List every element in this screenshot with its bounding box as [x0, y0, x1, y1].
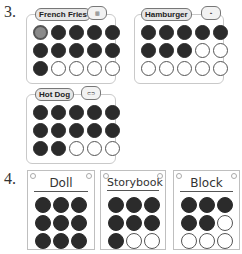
filled-circle-icon — [181, 197, 197, 213]
filled-circle-icon — [87, 25, 102, 40]
filled-circle-icon — [108, 215, 124, 231]
empty-circle-icon — [144, 233, 160, 249]
filled-circle-icon — [35, 215, 51, 231]
filled-circle-icon — [51, 25, 66, 40]
filled-circle-icon — [87, 43, 102, 58]
empty-circle-icon — [87, 61, 102, 76]
empty-circle-icon — [51, 61, 66, 76]
dot-grid — [33, 105, 120, 156]
empty-circle-icon — [199, 233, 215, 249]
filled-circle-icon — [144, 197, 160, 213]
empty-circle-icon — [105, 61, 120, 76]
empty-circle-icon — [195, 43, 210, 58]
filled-circle-icon — [71, 215, 87, 231]
filled-circle-icon — [105, 123, 120, 138]
empty-circle-icon — [126, 233, 142, 249]
filled-circle-icon — [51, 105, 66, 120]
question-number: 3. — [4, 3, 16, 21]
filled-circle-icon — [51, 43, 66, 58]
filled-circle-icon — [199, 215, 215, 231]
filled-circle-icon — [69, 123, 84, 138]
card-title: Block — [180, 176, 233, 192]
filled-circle-icon — [105, 25, 120, 40]
filled-circle-icon — [195, 25, 210, 40]
empty-circle-icon — [213, 61, 228, 76]
dot-grid — [141, 25, 228, 76]
card-label: Hamburger — [141, 8, 192, 21]
empty-circle-icon — [105, 141, 120, 156]
filled-circle-icon — [126, 197, 142, 213]
filled-circle-icon — [213, 25, 228, 40]
filled-circle-icon — [71, 197, 87, 213]
filled-circle-icon — [108, 197, 124, 213]
empty-circle-icon — [217, 215, 233, 231]
empty-circle-icon — [213, 43, 228, 58]
empty-circle-icon — [195, 61, 210, 76]
empty-circle-icon — [87, 141, 102, 156]
french-fries-card: French Fries ▥ — [26, 14, 116, 84]
card-title: Storybook — [107, 176, 159, 191]
dot-grid — [181, 197, 233, 249]
filled-circle-icon — [35, 197, 51, 213]
filled-circle-icon — [33, 141, 48, 156]
filled-circle-icon — [53, 215, 69, 231]
filled-circle-icon — [51, 141, 66, 156]
filled-circle-icon — [69, 105, 84, 120]
filled-circle-icon — [159, 43, 174, 58]
card-label: French Fries — [35, 8, 91, 21]
filled-circle-icon — [141, 43, 156, 58]
empty-circle-icon — [159, 61, 174, 76]
filled-circle-icon — [69, 25, 84, 40]
filled-circle-icon — [33, 105, 48, 120]
filled-circle-icon — [33, 123, 48, 138]
filled-circle-icon — [159, 25, 174, 40]
filled-circle-icon — [53, 197, 69, 213]
hamburger-icon: ◓ — [201, 6, 221, 20]
filled-circle-icon — [105, 43, 120, 58]
filled-circle-icon — [53, 233, 69, 249]
empty-circle-icon — [177, 61, 192, 76]
filled-circle-icon — [87, 105, 102, 120]
filled-circle-icon — [71, 233, 87, 249]
filled-circle-icon — [35, 233, 51, 249]
filled-circle-icon — [33, 61, 48, 76]
filled-circle-icon — [141, 25, 156, 40]
fries-icon: ▥ — [87, 6, 107, 20]
filled-circle-icon — [177, 43, 192, 58]
empty-circle-icon — [69, 141, 84, 156]
dot-grid — [108, 197, 160, 249]
hotdog-icon: ⊂⊃ — [81, 86, 101, 100]
dot-grid — [33, 25, 120, 76]
empty-circle-icon — [181, 233, 197, 249]
block-card: Block — [173, 170, 240, 250]
filled-circle-icon — [199, 197, 215, 213]
filled-circle-icon — [87, 123, 102, 138]
question-number: 4. — [4, 170, 16, 188]
hot-dog-card: Hot Dog ⊂⊃ — [26, 94, 116, 164]
empty-circle-icon — [217, 233, 233, 249]
card-label: Hot Dog — [35, 88, 74, 101]
filled-circle-icon — [217, 197, 233, 213]
empty-circle-icon — [69, 61, 84, 76]
card-title: Doll — [34, 176, 88, 192]
storybook-card: Storybook — [100, 170, 166, 250]
filled-circle-icon — [33, 43, 48, 58]
hamburger-card: Hamburger ◓ — [134, 14, 224, 84]
empty-circle-icon — [141, 61, 156, 76]
doll-card: Doll — [27, 170, 95, 250]
filled-circle-icon — [126, 215, 142, 231]
filled-circle-icon — [177, 25, 192, 40]
filled-circle-icon — [69, 43, 84, 58]
filled-circle-icon — [108, 233, 124, 249]
filled-circle-icon — [51, 123, 66, 138]
filled-circle-icon — [105, 105, 120, 120]
dot-grid — [35, 197, 87, 249]
filled-circle-icon — [33, 25, 48, 40]
filled-circle-icon — [181, 215, 197, 231]
filled-circle-icon — [144, 215, 160, 231]
